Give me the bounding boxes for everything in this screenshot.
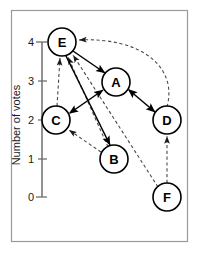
y-tick-label-3: 3 [28,75,34,87]
y-tick-label-2: 2 [28,114,34,126]
node-A-label: A [111,75,121,90]
figure-caption [2,250,199,258]
node-E-label: E [58,35,67,50]
figure-container: 4 3 2 1 0 Number of votes [0,0,201,258]
edge-B-to-C [69,130,101,152]
y-axis-tick-4: 4 [28,36,47,48]
node-E[interactable]: E [48,28,76,56]
y-tick-label-1: 1 [28,153,34,165]
edge-E-to-A [73,51,105,73]
node-B[interactable]: B [100,145,128,173]
y-tick-label-0: 0 [28,191,34,203]
edge-C-A-bidirectional [70,90,103,113]
node-C[interactable]: C [42,106,70,134]
vote-graph-svg: 4 3 2 1 0 Number of votes [0,0,201,258]
node-A[interactable]: A [102,68,130,96]
graph-nodes: E A C D B F [42,28,181,211]
edge-A-D-bidirectional [129,90,155,112]
node-B-label: B [109,152,118,167]
edge-C-to-E [57,58,60,106]
node-F[interactable]: F [153,183,181,211]
y-axis-tick-0: 0 [28,191,47,203]
node-D-label: D [162,113,171,128]
y-axis-tick-3: 3 [28,75,47,87]
node-F-label: F [163,190,171,205]
y-axis-title: Number of votes [10,84,22,165]
y-axis-tick-1: 1 [28,153,47,165]
node-C-label: C [51,113,61,128]
node-D[interactable]: D [153,106,181,134]
y-tick-label-4: 4 [28,36,34,48]
